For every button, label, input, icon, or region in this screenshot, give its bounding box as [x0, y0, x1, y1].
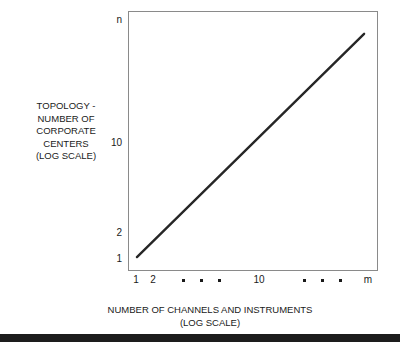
x-tick-label-1: 1 — [130, 275, 142, 285]
y-axis-label-line-3: CORPORATE — [8, 125, 124, 138]
y-tick-label-n: n — [104, 14, 122, 25]
y-tick-label-10: 10 — [102, 137, 122, 148]
x-axis-label-main: NUMBER OF CHANNELS AND INSTRUMENTS — [60, 304, 360, 317]
y-tick-label-2: 2 — [104, 227, 122, 238]
x-tick-label-m: m — [362, 275, 374, 285]
x-axis-label-sub: (LOG SCALE) — [60, 317, 360, 330]
bottom-divider — [0, 334, 400, 342]
ellipsis-dot — [200, 279, 203, 282]
y-axis-label-line-5: (LOG SCALE) — [8, 150, 124, 163]
y-axis-label: TOPOLOGY - NUMBER OF CORPORATE CENTERS (… — [8, 100, 124, 163]
ellipsis-dot — [339, 279, 342, 282]
y-axis-label-line-2: NUMBER OF — [8, 113, 124, 126]
ellipsis-dot — [182, 279, 185, 282]
figure-container: TOPOLOGY - NUMBER OF CORPORATE CENTERS (… — [0, 0, 400, 342]
y-tick-label-1: 1 — [104, 253, 122, 264]
x-axis-ellipsis-group-right — [303, 279, 342, 282]
ellipsis-dot — [321, 279, 324, 282]
y-axis-label-line-1: TOPOLOGY - — [8, 100, 124, 113]
x-axis-ellipsis-group-left — [182, 279, 221, 282]
ellipsis-dot — [303, 279, 306, 282]
plot-line-svg — [129, 12, 377, 270]
plot-area — [128, 11, 378, 271]
x-tick-label-10: 10 — [250, 275, 268, 285]
ellipsis-dot — [218, 279, 221, 282]
data-line-series-1 — [137, 34, 364, 257]
x-axis-label: NUMBER OF CHANNELS AND INSTRUMENTS (LOG … — [60, 304, 360, 329]
x-tick-label-2: 2 — [147, 275, 159, 285]
